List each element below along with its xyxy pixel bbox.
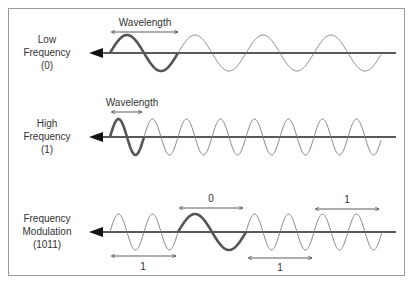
arrowhead-icon: [89, 48, 103, 58]
arrowhead-icon: [89, 132, 103, 142]
waveform-diagram: Wavelength Wavelength 1 0 1 1: [0, 0, 413, 286]
wavelength-label: Wavelength: [119, 17, 171, 28]
low-frequency-row: Wavelength: [89, 17, 396, 71]
arrowhead-icon: [89, 227, 103, 237]
fm-row: 1 0 1 1: [89, 193, 396, 273]
high-frequency-row: Wavelength: [89, 97, 396, 155]
wavelength-label: Wavelength: [106, 97, 158, 108]
bit-label: 1: [277, 262, 283, 273]
bit-label: 0: [208, 193, 214, 204]
bit-label: 1: [344, 194, 350, 205]
bit-label: 1: [140, 261, 146, 272]
